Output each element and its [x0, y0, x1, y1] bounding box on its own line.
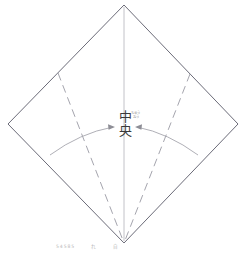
caption-segment-2: れ [91, 243, 97, 249]
caption-segment-3: 自 [113, 243, 119, 249]
center-diagram-figure: 中 央 ちゅうおう 54585 れ 自 [0, 0, 245, 256]
arc-arrow-right [137, 127, 198, 155]
figure-caption: 54585 れ 自 [56, 243, 176, 249]
caption-segment-1: 54585 [56, 244, 75, 249]
dashed-ray-right [124, 74, 190, 243]
dashed-ray-left [58, 73, 124, 243]
arc-arrow-left [50, 127, 113, 155]
center-label-char-bottom: 央 [112, 124, 138, 138]
ruby-annotation-text: ちゅうおう [131, 112, 140, 119]
